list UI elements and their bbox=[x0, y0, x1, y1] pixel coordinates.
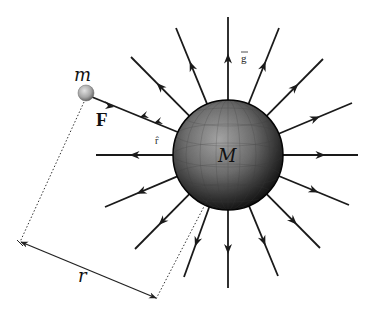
arrowhead-icon bbox=[258, 60, 269, 72]
small-mass-sphere bbox=[78, 85, 94, 101]
distance-extension-m bbox=[20, 102, 84, 242]
arrowhead-icon bbox=[308, 185, 320, 196]
arrowhead-icon bbox=[258, 235, 269, 247]
arrowhead-icon bbox=[309, 113, 321, 124]
arrowhead-icon bbox=[191, 236, 202, 248]
gravitation-diagram: m F r̂ g M r bbox=[0, 0, 371, 322]
force-label: F bbox=[96, 109, 108, 130]
distance-dimension-line bbox=[21, 242, 156, 298]
unit-vector-label: r̂ bbox=[155, 135, 159, 146]
distance-extension-M bbox=[156, 195, 210, 299]
distance-label: r bbox=[78, 265, 88, 286]
arrowhead-icon bbox=[186, 60, 197, 72]
unit-vector-arrowhead-icon bbox=[140, 111, 149, 118]
large-mass-label: M bbox=[217, 145, 237, 166]
unit-vector-arrowhead-icon-2 bbox=[154, 117, 163, 124]
small-mass-label: m bbox=[74, 64, 91, 85]
field-label: g bbox=[241, 52, 247, 64]
arrowhead-icon bbox=[135, 186, 147, 197]
